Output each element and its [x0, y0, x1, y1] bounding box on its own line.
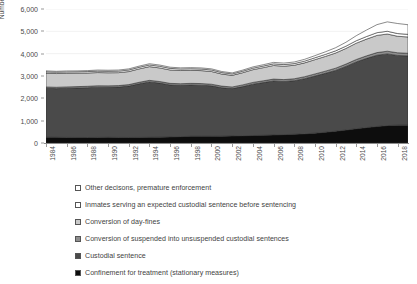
x-tick-mark [315, 144, 316, 147]
y-tick-label: 6,000 [20, 6, 38, 13]
x-tick-label: 2008 [297, 146, 304, 161]
legend-item-label: Conversion of suspended into unsuspended… [85, 235, 289, 243]
x-tick-label: 1996 [173, 146, 180, 161]
legend-item[interactable]: Conversion of suspended into unsuspended… [75, 230, 405, 247]
y-tick-label: 3,000 [20, 73, 38, 80]
legend-item[interactable]: Conversion of day-fines [75, 213, 405, 230]
x-tick-label: 1984 [49, 146, 56, 161]
y-tick-label: 2,000 [20, 95, 38, 102]
x-tick-label: 1998 [194, 146, 201, 161]
x-tick-label: 2000 [214, 146, 221, 161]
y-tick-mark [41, 98, 44, 99]
legend-swatch-icon [75, 202, 81, 208]
area-series [46, 54, 408, 138]
x-tick-label: 1992 [132, 146, 139, 161]
x-tick-label: 2016 [380, 146, 387, 161]
x-tick-label: 2002 [235, 146, 242, 161]
x-tick-label: 1990 [111, 146, 118, 161]
x-tick-mark [294, 144, 295, 147]
x-tick-mark [336, 144, 337, 147]
chart-legend: Other decisons, premature enforcementInm… [75, 179, 405, 281]
legend-item[interactable]: Inmates serving an expected custodial se… [75, 196, 405, 213]
legend-item-label: Inmates serving an expected custodial se… [85, 201, 296, 209]
x-tick-mark [274, 144, 275, 147]
legend-swatch-icon [75, 236, 81, 242]
x-tick-label: 2012 [339, 146, 346, 161]
x-tick-mark [232, 144, 233, 147]
y-tick-mark [41, 53, 44, 54]
x-tick-mark [46, 144, 47, 147]
plot-area [46, 9, 408, 143]
x-tick-label: 1986 [70, 146, 77, 161]
y-tick-label: 1,000 [20, 117, 38, 124]
x-tick-mark [149, 144, 150, 147]
x-tick-label: 2006 [277, 146, 284, 161]
legend-swatch-icon [75, 270, 81, 276]
stacked-area-chart: Number of executed sentences 01,0002,000… [0, 0, 417, 284]
legend-item-label: Confinement for treatment (stationary me… [85, 269, 239, 277]
x-tick-mark [377, 144, 378, 147]
x-tick-label: 2014 [359, 146, 366, 161]
legend-item-label: Other decisons, premature enforcement [85, 184, 211, 192]
y-tick-label: 5,000 [20, 28, 38, 35]
legend-item[interactable]: Other decisons, premature enforcement [75, 179, 405, 196]
x-tick-mark [253, 144, 254, 147]
legend-item[interactable]: Confinement for treatment (stationary me… [75, 264, 405, 281]
x-tick-label: 2010 [318, 146, 325, 161]
y-tick-label: 4,000 [20, 50, 38, 57]
x-tick-label: 1994 [152, 146, 159, 161]
plot-svg [46, 9, 408, 143]
x-tick-label: 1988 [90, 146, 97, 161]
x-tick-label: 2004 [256, 146, 263, 161]
legend-item[interactable]: Custodial sentence [75, 247, 405, 264]
legend-swatch-icon [75, 253, 81, 259]
legend-swatch-icon [75, 185, 81, 191]
y-tick-mark [41, 76, 44, 77]
x-tick-mark [170, 144, 171, 147]
x-tick-mark [356, 144, 357, 147]
x-tick-label: 2018 [401, 146, 408, 161]
y-tick-mark [41, 31, 44, 32]
x-tick-mark [108, 144, 109, 147]
y-tick-mark [41, 9, 44, 10]
legend-swatch-icon [75, 219, 81, 225]
x-axis-tick-labels: 1984198619881990199219941996199820002002… [46, 144, 408, 178]
x-tick-mark [191, 144, 192, 147]
legend-item-label: Conversion of day-fines [85, 218, 160, 226]
x-tick-mark [398, 144, 399, 147]
y-tick-label: 0 [34, 140, 38, 147]
x-tick-mark [211, 144, 212, 147]
y-axis-tick-labels: 01,0002,0003,0004,0005,0006,000 [0, 0, 44, 152]
y-tick-mark [41, 120, 44, 121]
legend-item-label: Custodial sentence [85, 252, 146, 260]
x-tick-mark [87, 144, 88, 147]
x-tick-mark [129, 144, 130, 147]
x-tick-mark [67, 144, 68, 147]
